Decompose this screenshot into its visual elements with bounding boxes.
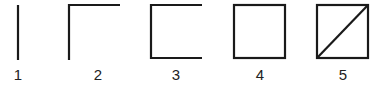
figure-2 — [69, 5, 120, 60]
figure-1-label: 1 — [14, 66, 22, 83]
figure-4-label: 4 — [256, 66, 264, 83]
figure-3-lines — [151, 5, 202, 58]
figure-2-lines — [69, 5, 120, 60]
figure-4 — [234, 5, 285, 58]
figure-5-diagonal — [317, 5, 368, 58]
figure-3 — [151, 5, 202, 58]
figure-5 — [317, 5, 368, 58]
figure-3-label: 3 — [172, 66, 180, 83]
figure-4-square — [234, 5, 285, 58]
figure-2-label: 2 — [94, 66, 102, 83]
figure-5-label: 5 — [339, 66, 347, 83]
figure-sequence: 1 2 3 4 5 — [0, 0, 377, 86]
